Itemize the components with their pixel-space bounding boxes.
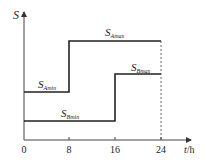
y-axis-label: S (13, 8, 19, 22)
x-tick-label-8: 8 (67, 144, 72, 155)
label-s-amax: SAmax (105, 26, 124, 39)
step-chart: S 0 8 16 24 t/h SAmax SAmin SBmax SBmin (0, 0, 207, 162)
x-tick-label-24: 24 (156, 144, 166, 155)
x-axis-label: t/h (184, 144, 195, 155)
label-s-bmax: SBmax (131, 61, 150, 74)
x-tick-label-16: 16 (110, 144, 120, 155)
label-s-bmin: SBmin (61, 107, 79, 120)
label-s-amin: SAmin (38, 78, 56, 91)
series-b-line (24, 74, 161, 121)
x-tick-label-0: 0 (22, 144, 27, 155)
